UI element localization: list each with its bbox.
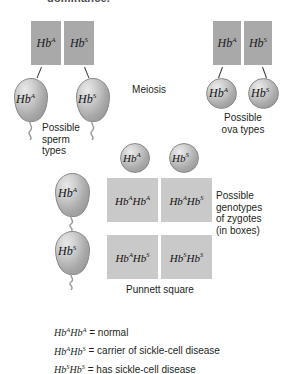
- sperm-hba-label: HbA: [16, 92, 35, 107]
- ova-caption-line-1: Possible: [203, 112, 283, 124]
- punnett-cell-as-top-label: HbAHbS: [169, 194, 203, 207]
- connector-male-hba: [37, 67, 42, 79]
- male-chromosome-hba: HbA: [31, 21, 61, 65]
- connector-female-hba: [218, 67, 223, 79]
- connector-male-hbs: [84, 67, 89, 79]
- zygote-caption-line-3: of zygotes: [216, 213, 292, 225]
- legend-desc-carrier: = carrier of sickle-cell disease: [88, 346, 219, 357]
- female-chromosome-hba-label: HbA: [218, 36, 237, 51]
- female-chromosome-hba: HbA: [213, 21, 241, 65]
- sperm-caption-line-1: Possible: [42, 122, 102, 134]
- zygote-caption-line-4: (in boxes): [216, 225, 292, 237]
- female-chromosome-hbs: HbS: [244, 21, 272, 65]
- punnett-square-label: Punnett square: [105, 284, 215, 296]
- male-chromosome-hbs-label: HbS: [70, 36, 88, 51]
- female-chromosome-hbs-label: HbS: [249, 36, 267, 51]
- ova-types-caption: Possible ova types: [203, 112, 283, 135]
- ovum-hbs-label: HbS: [251, 86, 269, 101]
- punnett-cell-aa: HbAHbA: [107, 178, 158, 222]
- page-heading-fragment: dominance.: [47, 0, 217, 4]
- connector-female-hbs: [262, 67, 267, 79]
- genotype-legend: HbAHbA = normal HbAHbS = carrier of sick…: [54, 322, 294, 374]
- punnett-cell-ss: HbSHbS: [161, 235, 212, 279]
- zygote-genotypes-caption: Possible genotypes of zygotes (in boxes): [216, 190, 292, 236]
- ova-caption-line-2: ova types: [203, 124, 283, 136]
- male-chromosome-hbs: HbS: [64, 21, 94, 65]
- punnett-column-gamete-hbs-label: HbS: [172, 151, 189, 164]
- legend-row-normal: HbAHbA = normal: [54, 322, 294, 340]
- zygote-caption-line-2: genotypes: [216, 202, 292, 214]
- legend-desc-affected: = has sickle-cell disease: [88, 364, 196, 374]
- punnett-row-sperm-tail-hba-icon: [66, 215, 79, 232]
- legend-row-affected: HbSHbS = has sickle-cell disease: [54, 359, 294, 374]
- sickle-cell-inheritance-diagram: dominance. HbA HbS HbA HbS Meiosis HbA: [0, 0, 295, 374]
- meiosis-label: Meiosis: [118, 84, 180, 96]
- sperm-caption-line-2: sperm: [42, 134, 102, 146]
- sperm-hbs-label: HbS: [78, 92, 96, 107]
- legend-desc-normal: = normal: [89, 327, 128, 338]
- sperm-types-caption: Possible sperm types: [42, 122, 102, 157]
- punnett-row-sperm-tail-hbs-icon: [66, 273, 79, 290]
- zygote-caption-line-1: Possible: [216, 190, 292, 202]
- legend-genotype-normal: HbAHbA: [54, 327, 86, 338]
- punnett-row-gamete-hba-label: HbA: [58, 186, 77, 201]
- punnett-cell-as-top: HbAHbS: [161, 178, 212, 222]
- sperm-caption-line-3: types: [42, 145, 102, 157]
- ovum-hba-label: HbA: [209, 86, 228, 101]
- punnett-column-gamete-hba-label: HbA: [123, 151, 141, 164]
- punnett-cell-as-bottom-label: HbAHbS: [115, 251, 149, 264]
- legend-genotype-carrier: HbAHbS: [54, 346, 86, 357]
- punnett-cell-aa-label: HbAHbA: [115, 194, 150, 207]
- male-chromosome-hba-label: HbA: [37, 36, 56, 51]
- punnett-row-gamete-hbs-label: HbS: [58, 244, 76, 259]
- punnett-cell-ss-label: HbSHbS: [170, 251, 203, 264]
- legend-row-carrier: HbAHbS = carrier of sickle-cell disease: [54, 340, 294, 358]
- punnett-cell-as-bottom: HbAHbS: [107, 235, 158, 279]
- sperm-tail-hba-icon: [24, 120, 38, 140]
- legend-genotype-affected: HbSHbS: [54, 364, 85, 374]
